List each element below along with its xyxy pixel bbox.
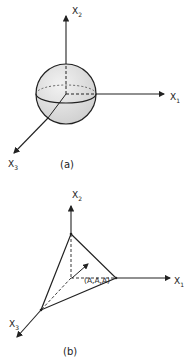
diagram-canvas: X2 X1 X3 (a) (A,A,A) X2 X1 X3 (b) (0, 0, 190, 364)
x3-axis (17, 310, 41, 337)
point-label: (A,A,A) (84, 276, 110, 285)
x1-label: X1 (170, 92, 180, 104)
figure-a: X2 X1 X3 (a) (8, 6, 180, 171)
figure-b: (A,A,A) X2 X1 X3 (b) (9, 190, 184, 357)
vertex-right (115, 277, 118, 280)
x3-label: X3 (9, 319, 19, 331)
hidden-edge-diagonal (41, 278, 71, 310)
caption-a: (a) (60, 159, 74, 170)
vertex-top (70, 233, 73, 236)
vertex-bottom (40, 309, 43, 312)
x2-label: X2 (72, 6, 82, 18)
caption-b: (b) (63, 346, 77, 357)
x1-label: X1 (174, 276, 184, 288)
x2-label: X2 (72, 190, 82, 202)
x3-axis (14, 118, 48, 153)
x3-label: X3 (8, 159, 18, 171)
